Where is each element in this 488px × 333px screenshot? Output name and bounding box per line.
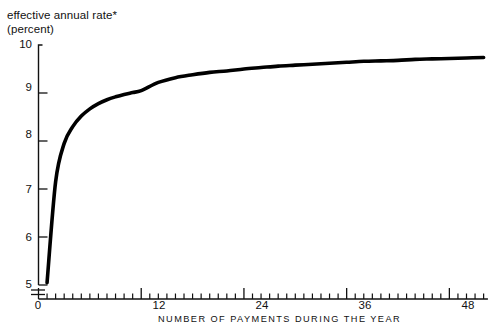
effective-annual-rate-curve — [47, 57, 484, 282]
chart-figure: effective annual rate* (percent) NUMBER … — [0, 0, 488, 333]
chart-plot-area — [0, 0, 488, 333]
axis-lines — [39, 45, 488, 299]
y-axis-line — [39, 45, 43, 285]
y-axis-ticks — [39, 93, 48, 285]
x-axis-ticks — [39, 288, 484, 299]
